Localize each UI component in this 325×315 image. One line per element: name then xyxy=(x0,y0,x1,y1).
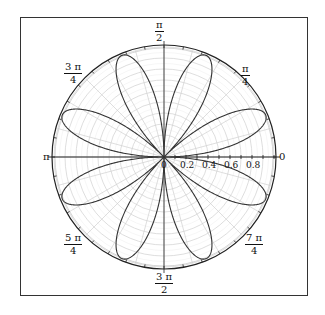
radial-tick-0-8: 0.8 xyxy=(246,160,260,170)
angle-label-3pi-over-4: 3 π 4 xyxy=(64,62,82,85)
angle-label-3pi-over-2: 3 π 2 xyxy=(155,272,173,295)
label-den: 4 xyxy=(70,245,76,256)
label-num: 7 π xyxy=(245,233,263,245)
angle-tick xyxy=(183,47,184,50)
label-den: 4 xyxy=(242,76,248,87)
label-num: π xyxy=(155,20,164,32)
angle-label-pi-over-2: π 2 xyxy=(155,20,164,43)
angle-tick xyxy=(271,138,274,139)
label-den: 4 xyxy=(70,74,76,85)
grid-radial-line xyxy=(164,157,219,252)
label-num: 3 π xyxy=(64,62,82,74)
label-num: 3 π xyxy=(155,272,173,284)
label-num: 5 π xyxy=(64,233,82,245)
angle-tick xyxy=(54,176,57,177)
angle-label-0: 0 xyxy=(279,152,285,162)
angle-label-pi-over-4: π 4 xyxy=(241,64,250,87)
angle-tick xyxy=(145,47,146,50)
grid-radial-line xyxy=(109,157,164,252)
radial-tick-0-2: 0.2 xyxy=(180,160,194,170)
radial-tick-0: 0 xyxy=(161,160,167,170)
label-den: 2 xyxy=(161,284,167,295)
radial-tick-0-6: 0.6 xyxy=(224,160,238,170)
angle-tick xyxy=(145,264,146,267)
label-num: π xyxy=(241,64,250,76)
grid-radial-line xyxy=(164,102,259,157)
angle-label-7pi-over-4: 7 π 4 xyxy=(245,233,263,256)
angle-tick xyxy=(183,264,184,267)
grid-radial-line xyxy=(69,102,164,157)
grid-radial-line xyxy=(69,157,164,212)
grid-radial-line xyxy=(109,62,164,157)
angle-label-5pi-over-4: 5 π 4 xyxy=(64,233,82,256)
angle-tick xyxy=(54,138,57,139)
label-den: 4 xyxy=(251,245,257,256)
radial-tick-0-4: 0.4 xyxy=(202,160,216,170)
angle-tick xyxy=(271,176,274,177)
label-den: 2 xyxy=(156,32,162,43)
grid-radial-line xyxy=(164,62,219,157)
angle-label-pi: π xyxy=(43,152,50,162)
